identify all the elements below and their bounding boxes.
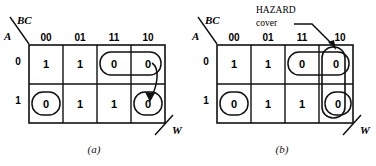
- col-header-00: 00: [40, 32, 52, 43]
- cell-r1-c1: 1: [265, 98, 271, 110]
- col-header-11: 11: [297, 32, 308, 43]
- kmap-figure-b: HAZARD cover BC A 00 01 11 10 0 1 1 1 0 …: [188, 0, 376, 166]
- cell-r1-c2: 1: [299, 98, 305, 110]
- col-header-10: 10: [142, 32, 154, 43]
- row-header-1: 1: [203, 95, 209, 106]
- col-header-10: 10: [334, 32, 346, 43]
- cell-r1-c3: 0: [335, 98, 341, 110]
- output-slash: [343, 115, 361, 135]
- figure-caption-b: (b): [188, 143, 376, 155]
- col-header-00: 00: [228, 32, 240, 43]
- row-header-0: 0: [203, 56, 209, 67]
- row-header-0: 0: [15, 56, 21, 67]
- col-var-label-bc: BC: [16, 14, 32, 26]
- cell-r0-c3: 0: [333, 58, 339, 70]
- cell-r0-c1: 1: [265, 58, 271, 70]
- cell-r0-c0: 1: [231, 58, 237, 70]
- cell-r0-c3: 0: [145, 58, 151, 70]
- row-var-label-a: A: [3, 30, 11, 42]
- cell-r1-c0: 0: [231, 98, 237, 110]
- cell-r0-c1: 1: [77, 58, 83, 70]
- kmap-figure-a: BC A 00 01 11 10 0 1 1 1 0 0 0 1 1 0: [0, 0, 188, 166]
- row-var-label-a: A: [191, 30, 199, 42]
- output-slash: [155, 115, 173, 135]
- cell-r0-c0: 1: [43, 58, 49, 70]
- col-header-01: 01: [74, 32, 86, 43]
- row-header-1: 1: [15, 95, 21, 106]
- output-label-w: W: [360, 124, 371, 136]
- col-var-label-bc: BC: [204, 14, 220, 26]
- cell-r0-c2: 0: [111, 58, 117, 70]
- kmap-a-drawing: BC A 00 01 11 10 0 1 1 1 0 0 0 1 1 0: [0, 0, 188, 145]
- kmap-b-drawing: HAZARD cover BC A 00 01 11 10 0 1 1 1 0 …: [188, 0, 376, 145]
- cell-r1-c1: 1: [77, 98, 83, 110]
- cell-r1-c0: 0: [43, 98, 49, 110]
- col-header-11: 11: [109, 32, 120, 43]
- output-label-w: W: [172, 124, 183, 136]
- hazard-cover-label-line1: HAZARD: [256, 5, 296, 15]
- col-header-01: 01: [262, 32, 274, 43]
- hazard-cover-label-line2: cover: [256, 18, 278, 28]
- figure-caption-a: (a): [0, 143, 188, 155]
- cell-r1-c2: 1: [111, 98, 117, 110]
- cell-r0-c2: 0: [299, 58, 305, 70]
- cell-r1-c3: 0: [145, 98, 151, 110]
